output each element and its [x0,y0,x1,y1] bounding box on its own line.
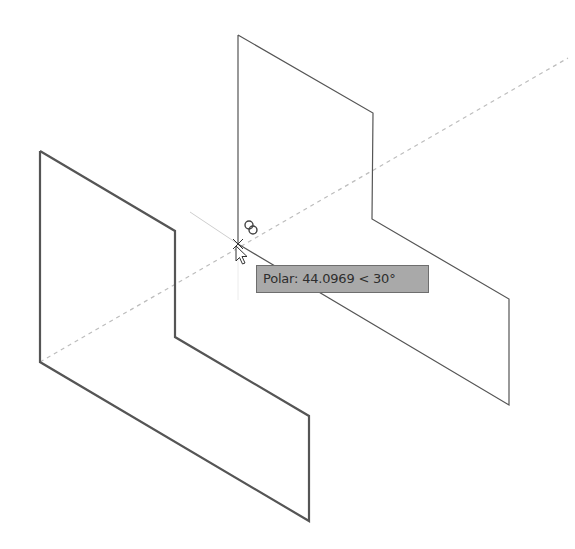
intersection-snap-icon [245,221,257,234]
polar-tracking-line [40,58,568,362]
right-l-panel[interactable] [238,35,509,405]
crosshair-guide-line [190,212,238,244]
left-l-panel[interactable] [40,151,309,521]
polar-tooltip-text: Polar: 44.0969 < 30° [263,271,396,286]
polar-tooltip: Polar: 44.0969 < 30° [256,265,429,293]
